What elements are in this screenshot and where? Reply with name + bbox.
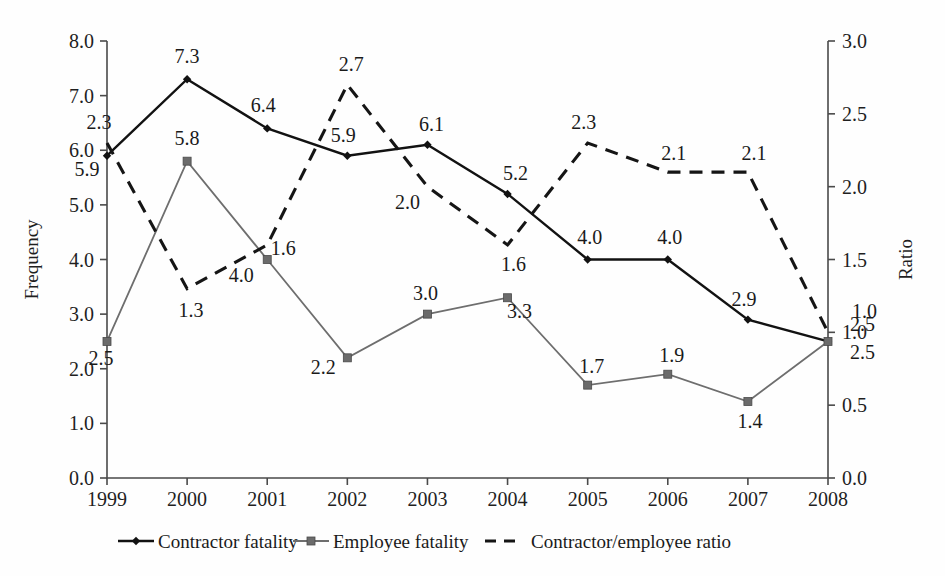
right-axis-tick-label: 2.0 xyxy=(842,176,867,198)
data-label-employee-fatality: 4.0 xyxy=(229,264,254,286)
legend-item-label: Employee fatality xyxy=(333,531,469,552)
markers-layer xyxy=(103,75,832,405)
data-point-employee-fatality xyxy=(744,398,752,406)
series-line-contractor-fatality xyxy=(107,79,828,341)
data-label-contractor-employee-ratio: 1.6 xyxy=(501,253,526,275)
legend-item-2[interactable]: Contractor/employee ratio xyxy=(485,531,731,552)
data-labels-layer: 5.97.36.45.96.15.24.04.02.92.52.55.84.02… xyxy=(75,45,878,431)
data-point-employee-fatality xyxy=(103,337,111,345)
left-axis-tick-label: 1.0 xyxy=(69,412,94,434)
left-axis-tick-label: 5.0 xyxy=(69,194,94,216)
data-point-employee-fatality xyxy=(824,337,832,345)
legend-diamond-marker-icon xyxy=(132,537,140,545)
data-label-contractor-employee-ratio: 2.0 xyxy=(395,191,420,213)
x-axis-tick-label: 2001 xyxy=(247,488,287,510)
right-axis-tick-label: 2.5 xyxy=(842,103,867,125)
left-axis-tick-label: 3.0 xyxy=(69,303,94,325)
x-axis-tick-label: 2004 xyxy=(488,488,528,510)
axes-layer: 8.07.06.05.04.03.02.01.00.03.02.52.01.51… xyxy=(21,30,916,510)
legend-square-marker-icon xyxy=(307,537,315,545)
x-axis-tick-label: 2007 xyxy=(728,488,768,510)
data-label-employee-fatality: 3.3 xyxy=(507,300,532,322)
data-label-contractor-fatality: 5.9 xyxy=(75,158,100,180)
data-point-employee-fatality xyxy=(664,370,672,378)
left-axis-tick-label: 0.0 xyxy=(69,467,94,489)
data-label-contractor-fatality: 4.0 xyxy=(577,226,602,248)
legend-item-label: Contractor/employee ratio xyxy=(531,531,731,552)
x-axis-tick-label: 2005 xyxy=(568,488,608,510)
right-axis-tick-label: 1.5 xyxy=(842,249,867,271)
data-label-employee-fatality: 5.8 xyxy=(175,127,200,149)
left-axis-tick-label: 7.0 xyxy=(69,85,94,107)
x-axis-tick-label: 2003 xyxy=(407,488,447,510)
chart-figure: 8.07.06.05.04.03.02.01.00.03.02.52.01.51… xyxy=(0,0,945,576)
x-axis-tick-label: 2006 xyxy=(648,488,688,510)
data-point-employee-fatality xyxy=(183,157,191,165)
left-axis-title: Frequency xyxy=(21,219,42,300)
right-axis-tick-label: 3.0 xyxy=(842,30,867,52)
x-axis-tick-label: 2000 xyxy=(167,488,207,510)
x-axis-tick-label: 1999 xyxy=(87,488,127,510)
series-line-employee-fatality xyxy=(107,161,828,401)
data-point-employee-fatality xyxy=(584,381,592,389)
data-label-contractor-employee-ratio: 2.3 xyxy=(571,111,596,133)
right-axis-tick-label: 0.5 xyxy=(842,394,867,416)
data-label-contractor-fatality: 6.4 xyxy=(251,94,276,116)
legend-item-0[interactable]: Contractor fatality xyxy=(118,531,298,552)
chart-legend: Contractor fatalityEmployee fatalityCont… xyxy=(118,531,731,552)
line-chart: 8.07.06.05.04.03.02.01.00.03.02.52.01.51… xyxy=(0,0,945,576)
data-label-contractor-fatality: 2.9 xyxy=(731,288,756,310)
data-label-contractor-fatality: 5.9 xyxy=(331,124,356,146)
data-label-contractor-employee-ratio: 2.7 xyxy=(339,53,364,75)
left-axis-tick-label: 4.0 xyxy=(69,249,94,271)
data-label-employee-fatality: 1.9 xyxy=(659,344,684,366)
right-axis-tick-label: 0.0 xyxy=(842,467,867,489)
data-label-employee-fatality: 2.5 xyxy=(850,341,875,363)
data-point-employee-fatality xyxy=(343,354,351,362)
series-layer xyxy=(107,79,828,401)
data-label-contractor-employee-ratio: 2.1 xyxy=(741,142,766,164)
data-label-contractor-employee-ratio: 1.3 xyxy=(179,299,204,321)
data-label-employee-fatality: 1.7 xyxy=(579,355,604,377)
x-axis-tick-label: 2008 xyxy=(808,488,848,510)
data-label-contractor-fatality: 6.1 xyxy=(419,113,444,135)
data-label-contractor-fatality: 7.3 xyxy=(175,45,200,67)
series-line-contractor-employee-ratio xyxy=(107,85,828,333)
right-axis-title: Ratio xyxy=(895,239,916,280)
data-label-employee-fatality: 2.2 xyxy=(311,356,336,378)
data-label-contractor-employee-ratio: 1.0 xyxy=(852,300,877,322)
legend-item-label: Contractor fatality xyxy=(158,531,298,552)
data-label-employee-fatality: 2.5 xyxy=(89,347,114,369)
data-label-contractor-employee-ratio: 2.1 xyxy=(661,142,686,164)
left-axis-tick-label: 8.0 xyxy=(69,30,94,52)
data-label-contractor-employee-ratio: 2.3 xyxy=(87,111,112,133)
data-point-contractor-fatality xyxy=(343,152,351,160)
left-bottom-axis-spine xyxy=(107,41,828,478)
x-axis-tick-label: 2002 xyxy=(327,488,367,510)
data-label-employee-fatality: 1.4 xyxy=(737,410,762,432)
data-label-contractor-fatality: 5.2 xyxy=(503,162,528,184)
data-label-contractor-employee-ratio: 1.6 xyxy=(271,237,296,259)
legend-item-1[interactable]: Employee fatality xyxy=(293,531,469,552)
data-point-employee-fatality xyxy=(423,310,431,318)
data-label-contractor-fatality: 4.0 xyxy=(657,226,682,248)
data-label-employee-fatality: 3.0 xyxy=(413,282,438,304)
